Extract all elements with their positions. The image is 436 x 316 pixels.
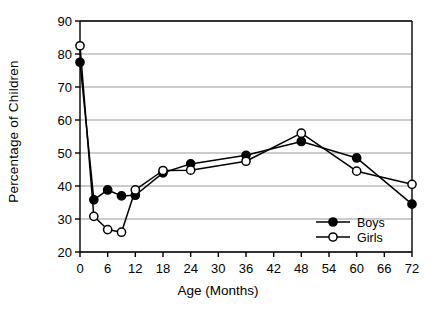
legend-marker-girls bbox=[329, 233, 337, 241]
y-tick-label: 50 bbox=[58, 146, 72, 161]
data-point-girls bbox=[131, 186, 139, 194]
legend-marker-boys bbox=[329, 218, 337, 226]
x-tick-label: 48 bbox=[294, 261, 308, 276]
data-point-boys bbox=[104, 186, 112, 194]
x-tick-label: 18 bbox=[156, 261, 170, 276]
data-point-girls bbox=[353, 167, 361, 175]
chart-figure: Percentage of Children 20304050607080900… bbox=[0, 0, 436, 316]
x-tick-label: 36 bbox=[239, 261, 253, 276]
x-tick-label: 60 bbox=[349, 261, 363, 276]
data-point-girls bbox=[187, 166, 195, 174]
data-point-girls bbox=[242, 157, 250, 165]
y-tick-label: 60 bbox=[58, 113, 72, 128]
x-tick-label: 24 bbox=[183, 261, 197, 276]
x-tick-label: 0 bbox=[76, 261, 83, 276]
y-tick-label: 70 bbox=[58, 80, 72, 95]
data-point-girls bbox=[76, 42, 84, 50]
x-tick-label: 54 bbox=[322, 261, 336, 276]
line-chart-plot: 2030405060708090061218243036424854606672… bbox=[0, 0, 436, 316]
y-tick-label: 30 bbox=[58, 212, 72, 227]
x-tick-label: 42 bbox=[266, 261, 280, 276]
data-point-girls bbox=[159, 166, 167, 174]
data-point-boys bbox=[353, 154, 361, 162]
legend-label-boys: Boys bbox=[357, 216, 385, 230]
data-point-girls bbox=[104, 225, 112, 233]
data-point-girls bbox=[408, 180, 416, 188]
y-tick-label: 90 bbox=[58, 14, 72, 29]
data-point-boys bbox=[117, 192, 125, 200]
legend-label-girls: Girls bbox=[357, 231, 383, 245]
data-point-boys bbox=[297, 137, 305, 145]
data-point-girls bbox=[90, 212, 98, 220]
x-tick-label: 30 bbox=[211, 261, 225, 276]
data-point-boys bbox=[90, 196, 98, 204]
cut-off-caption bbox=[0, 300, 436, 316]
x-tick-label: 72 bbox=[405, 261, 419, 276]
x-tick-label: 66 bbox=[377, 261, 391, 276]
x-axis-title: Age (Months) bbox=[0, 283, 436, 298]
data-point-girls bbox=[117, 228, 125, 236]
y-tick-label: 20 bbox=[58, 245, 72, 260]
y-tick-label: 40 bbox=[58, 179, 72, 194]
y-tick-label: 80 bbox=[58, 47, 72, 62]
series-line-boys bbox=[80, 62, 412, 204]
data-point-girls bbox=[297, 129, 305, 137]
data-point-boys bbox=[76, 58, 84, 66]
series-line-girls bbox=[80, 46, 412, 232]
x-tick-label: 6 bbox=[104, 261, 111, 276]
x-tick-label: 12 bbox=[128, 261, 142, 276]
data-point-boys bbox=[408, 200, 416, 208]
